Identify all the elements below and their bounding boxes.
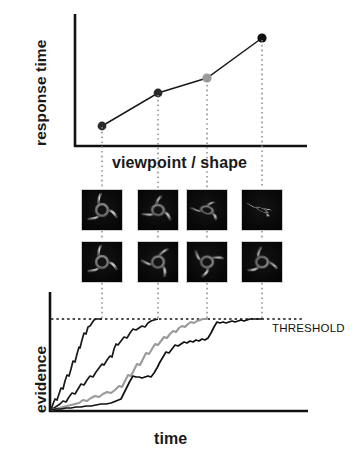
stimulus-bottom-4: [241, 241, 283, 283]
response-time-y-axis-label: response time: [32, 40, 50, 146]
rt-point-1: [98, 122, 107, 131]
stimulus-bottom-3: [186, 241, 228, 283]
time-x-axis-label: time: [154, 430, 187, 448]
stimulus-top-2: [137, 189, 179, 231]
stimulus-top-1: [81, 189, 123, 231]
stimulus-top-4: [241, 189, 283, 231]
stimulus-bottom-2: [137, 241, 179, 283]
evidence-y-axis-label: evidence: [32, 346, 50, 413]
stimulus-top-3: [186, 189, 228, 231]
stimulus-bottom-1: [81, 241, 123, 283]
viewpoint-shape-x-axis-label: viewpoint / shape: [112, 154, 247, 172]
threshold-label: THRESHOLD: [272, 322, 345, 334]
